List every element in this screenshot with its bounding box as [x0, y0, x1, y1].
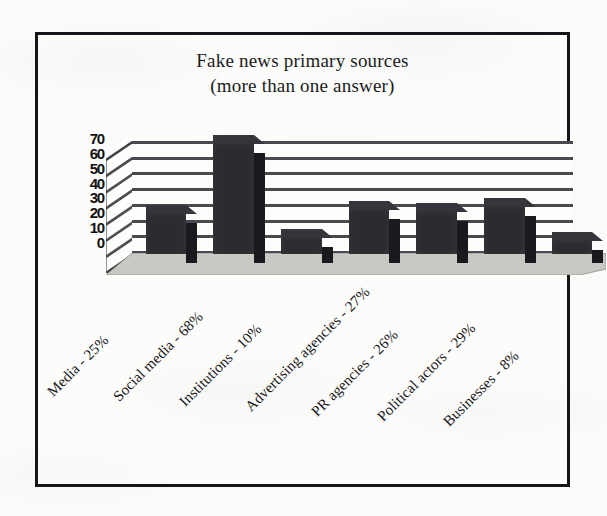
x-axis-category-label: Media - 25%: [44, 332, 112, 400]
chart-frame-border: Fake news primary sources (more than one…: [35, 32, 570, 487]
plot-area: 706050403020100: [62, 141, 567, 281]
x-axis-category-label: Advertising agencies - 27%: [242, 284, 373, 415]
y-axis-tick-label: 60: [74, 148, 104, 160]
bar-front-face: [552, 241, 593, 254]
bar: [484, 207, 525, 254]
bar-side-face: [592, 250, 603, 263]
chart-3d-box: [106, 141, 573, 281]
bar: [416, 212, 457, 254]
y-axis-tick-label: 40: [74, 178, 104, 190]
bar-top-face: [484, 198, 536, 207]
y-axis-tick-label: 0: [74, 237, 104, 249]
bar-top-face: [146, 205, 198, 214]
bar: [349, 210, 390, 254]
x-axis-category-labels: Media - 25%Social media - 68%Institution…: [38, 291, 573, 441]
bar: [281, 238, 322, 254]
bar-top-face: [213, 135, 265, 144]
chart-title-line-2: (more than one answer): [38, 74, 567, 99]
bar-top-face: [281, 229, 333, 238]
bar-front-face: [146, 214, 187, 254]
bar-side-face: [389, 219, 400, 263]
y-axis-tick-label: 70: [74, 133, 104, 145]
y-axis-tick-label: 50: [74, 163, 104, 175]
chart-title-line-1: Fake news primary sources: [38, 49, 567, 74]
bars-layer: [132, 141, 573, 273]
chart-page: Fake news primary sources (more than one…: [0, 0, 607, 516]
bar-top-face: [416, 203, 468, 212]
bar-side-face: [525, 216, 536, 263]
bar: [552, 241, 593, 254]
bar-side-face: [254, 153, 265, 263]
bar-side-face: [322, 247, 333, 263]
bar-front-face: [213, 144, 254, 254]
y-axis-tick-label: 20: [74, 207, 104, 219]
bar-front-face: [349, 210, 390, 254]
chart-title: Fake news primary sources (more than one…: [38, 49, 567, 98]
bar-front-face: [281, 238, 322, 254]
bar-top-face: [552, 232, 604, 241]
bar-side-face: [457, 221, 468, 263]
bar-front-face: [416, 212, 457, 254]
bar: [213, 144, 254, 254]
bar-side-face: [186, 223, 197, 263]
y-axis-tick-label: 30: [74, 192, 104, 204]
y-axis-tick-labels: 706050403020100: [74, 133, 104, 251]
bar: [146, 214, 187, 254]
y-axis-tick-label: 10: [74, 222, 104, 234]
x-axis-category-label: Businesses - 8%: [440, 347, 523, 430]
bar-top-face: [349, 201, 401, 210]
bar-front-face: [484, 207, 525, 254]
